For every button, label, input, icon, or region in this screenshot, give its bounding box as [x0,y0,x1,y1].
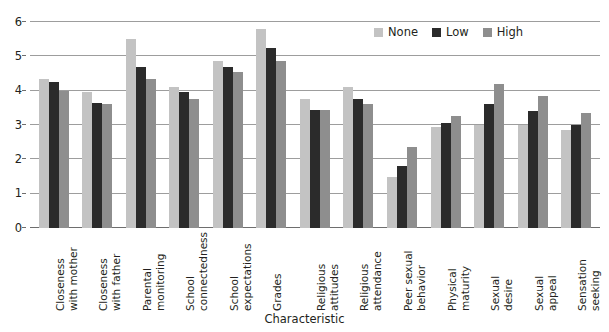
x-axis-label-text: Grades [271,233,284,311]
y-tick-mark-5 [22,55,26,56]
bar-high [451,116,461,228]
bar-high [276,61,286,228]
bar-high [581,113,591,228]
y-tick-label-0: 0 [15,222,22,234]
bar-none [300,99,310,228]
x-axis-label: Religiousattitudes [293,231,337,309]
bar-group [511,22,555,228]
bar-none [474,125,484,228]
x-axis-label-line1: School [228,276,240,311]
bar-low [353,99,363,228]
bar-group [337,22,381,228]
bar-high [233,72,243,228]
legend-item-high[interactable]: High [483,27,523,39]
bar-group [554,22,598,228]
legend-swatch-icon [483,28,492,37]
bar-none [82,92,92,228]
x-axis-label: Religiousattendance [337,231,381,309]
bar-group [119,22,163,228]
legend-swatch-icon [432,28,441,37]
y-tick-mark-3 [22,124,26,125]
x-axis-label-text: Sensationseeking [576,233,601,311]
bar-group [293,22,337,228]
bar-none [126,39,136,228]
bar-group [76,22,120,228]
bar-none [169,87,179,228]
bar-none [213,61,223,228]
x-axis-label-line1: Peer sexual [402,251,414,312]
bar-group [206,22,250,228]
legend-label: High [497,27,523,39]
y-tick-label-3: 3 [15,119,22,131]
x-axis-label: Closenesswith mother [32,231,76,309]
legend-label: Low [446,27,469,39]
x-axis-label-line1: Physical [446,268,458,311]
bar-low [266,48,276,228]
bar-none [387,177,397,229]
x-axis-label: Parentalmonitoring [119,231,163,309]
bar-high [146,79,156,228]
bar-low [92,103,102,228]
x-axis-title: Characteristic [0,312,609,326]
x-axis-label: Closenesswith father [76,231,120,309]
x-axis-label-line1: School [184,276,196,311]
bar-low [528,111,538,228]
bar-low [136,67,146,228]
bar-group [32,22,76,228]
x-axis-label-line2: seeking [589,233,602,311]
bar-high [538,96,548,228]
plot-area [30,22,600,228]
bar-high [59,91,69,228]
bar-none [431,127,441,228]
bar-low [49,82,59,228]
bar-high [407,147,417,228]
x-axis-labels: Closenesswith motherClosenesswith father… [30,231,600,309]
x-axis-label: Schoolconnectedness [163,231,207,309]
y-tick-label-4: 4 [15,85,22,97]
bar-group [163,22,207,228]
bar-group [380,22,424,228]
y-axis: 0123456 [0,22,26,228]
x-axis-label-line1: Closeness [54,258,66,311]
bar-group [467,22,511,228]
bar-low [397,166,407,228]
bar-low [484,104,494,228]
bar-none [561,130,571,228]
x-axis-label-line1: Grades [271,274,283,311]
bar-low [310,110,320,228]
x-axis-label: Peer sexualbehavior [380,231,424,309]
y-tick-mark-4 [22,90,26,91]
y-tick-label-1: 1 [15,188,22,200]
bar-low [179,92,189,228]
y-tick-label-5: 5 [15,51,22,63]
bar-groups [30,22,600,228]
x-axis-label-line1: Sensation [576,259,588,311]
bar-high [189,99,199,228]
y-tick-mark-0 [22,227,26,228]
y-tick-label-6: 6 [15,16,22,28]
x-axis-label-line1: Sexual [489,276,501,311]
bar-group [250,22,294,228]
chart-legend: NoneLowHigh [374,27,523,39]
bar-high [363,104,373,228]
legend-item-none[interactable]: None [374,27,418,39]
x-axis-label: Sensationseeking [554,231,598,309]
legend-item-low[interactable]: Low [432,27,469,39]
x-axis-label: Grades [250,231,294,309]
x-axis-label-line1: Closeness [97,258,109,311]
legend-swatch-icon [374,28,383,37]
y-tick-mark-6 [22,21,26,22]
y-tick-mark-2 [22,158,26,159]
bar-low [571,125,581,228]
x-axis-label: Sexualdesire [467,231,511,309]
x-axis-label: Physicalmaturity [424,231,468,309]
bar-low [441,123,451,228]
y-tick-label-2: 2 [15,154,22,166]
bar-high [494,84,504,228]
bar-high [320,110,330,228]
x-axis-label-line1: Parental [141,268,153,311]
x-axis-label: Schoolexpectations [206,231,250,309]
bar-none [343,87,353,228]
legend-label: None [388,27,418,39]
bar-none [39,79,49,228]
